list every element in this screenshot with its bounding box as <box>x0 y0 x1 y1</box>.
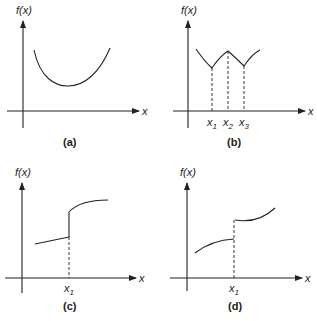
tick-label-x1: x1 <box>228 282 239 297</box>
curve <box>34 48 110 86</box>
x-axis-label: x <box>307 105 314 117</box>
y-axis-label: f(x) <box>181 4 197 16</box>
x-axis-label: x <box>304 272 311 284</box>
left-curve <box>195 239 234 253</box>
y-axis-label: f(x) <box>180 166 196 178</box>
panel-d: f(x) x x1 (d) <box>170 166 311 312</box>
panel-caption: (a) <box>63 136 77 148</box>
tick-label-x1: x1 <box>206 116 217 131</box>
panel-caption: (b) <box>227 136 241 148</box>
y-axis-label: f(x) <box>15 166 31 178</box>
panel-a: f(x) x (a) <box>7 4 148 148</box>
right-curve <box>235 208 275 221</box>
x-axis-label: x <box>141 105 148 117</box>
x-axis-label: x <box>138 272 145 284</box>
panel-caption: (c) <box>63 300 77 312</box>
panel-b: f(x) x x1 x2 x3 (b) <box>173 4 314 148</box>
right-curve <box>69 200 108 212</box>
panel-c: f(x) x x1 (c) <box>5 166 145 312</box>
tick-label-x1: x1 <box>63 282 74 297</box>
y-axis-label: f(x) <box>16 4 32 16</box>
left-segment <box>35 237 69 244</box>
tick-label-x2: x2 <box>222 116 234 131</box>
tick-label-x3: x3 <box>238 116 250 131</box>
figure: f(x) x (a) f(x) x x1 x2 x3 (b) f(x) x x1… <box>0 0 317 321</box>
panel-caption: (d) <box>228 300 242 312</box>
